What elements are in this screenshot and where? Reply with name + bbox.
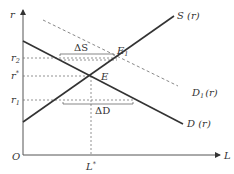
rstar-label: r*: [11, 69, 20, 81]
origin-label: O: [12, 151, 20, 162]
lstar-label: L*: [85, 160, 97, 172]
l-axis-label: L: [223, 150, 231, 161]
delta-s-label: ΔS: [74, 42, 88, 53]
r2-label: r2: [11, 52, 20, 65]
r1-label: r1: [11, 94, 20, 107]
delta-s-bracket: [60, 54, 114, 56]
delta-d-label: ΔD: [95, 105, 110, 116]
delta-d-bracket: [63, 102, 133, 104]
demand-curve-label: D (r): [186, 118, 211, 129]
d1-curve-label: D1(r): [191, 87, 218, 100]
equilibrium-e-label: E: [100, 71, 109, 82]
supply-demand-diagram: r L O r2 r* r1 L* E E1 ΔS ΔD S (r) D1(r)…: [0, 0, 234, 174]
supply-curve-label: S (r): [177, 10, 200, 21]
r-axis-label: r: [10, 9, 16, 20]
